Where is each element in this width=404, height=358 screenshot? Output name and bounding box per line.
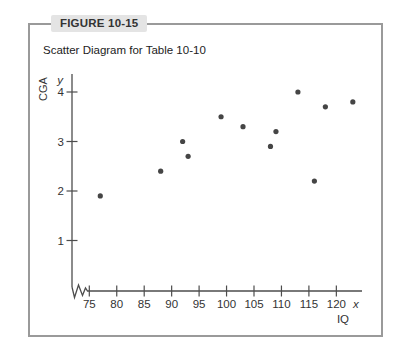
data-point xyxy=(158,169,163,174)
data-point xyxy=(218,114,223,119)
data-point xyxy=(98,193,103,198)
x-tick-label: 120 xyxy=(327,298,346,310)
y-axis-letter: y xyxy=(56,74,64,86)
x-tick-label: 115 xyxy=(300,298,318,310)
figure-10-15: FIGURE 10-15 Scatter Diagram for Table 1… xyxy=(0,0,404,358)
data-point xyxy=(186,154,191,159)
figure-title: Scatter Diagram for Table 10-10 xyxy=(43,44,206,57)
data-point xyxy=(268,144,273,149)
data-point xyxy=(312,179,317,184)
y-tick-label: 4 xyxy=(58,86,65,98)
x-tick-label: 100 xyxy=(217,298,236,310)
x-tick-label: 95 xyxy=(193,298,206,310)
x-tick-label: 75 xyxy=(83,298,96,310)
x-axis-line-with-break xyxy=(72,285,362,298)
y-tick-label: 2 xyxy=(58,185,64,197)
data-point xyxy=(350,99,355,104)
y-axis-title: CGA xyxy=(37,76,49,101)
data-point xyxy=(295,89,300,94)
x-tick-label: 110 xyxy=(272,298,290,310)
data-point xyxy=(180,139,185,144)
y-tick-label: 1 xyxy=(58,235,64,247)
x-tick-label: 105 xyxy=(244,298,263,310)
data-point xyxy=(240,124,245,129)
x-tick-label: 90 xyxy=(165,298,178,310)
x-tick-label: 85 xyxy=(138,298,151,310)
x-axis-letter: x xyxy=(352,298,360,310)
x-tick-label: 80 xyxy=(110,298,123,310)
x-axis-title: IQ xyxy=(337,313,349,325)
data-point xyxy=(273,129,278,134)
y-tick-label: 3 xyxy=(58,136,64,148)
data-point xyxy=(323,104,328,109)
figure-label: FIGURE 10-15 xyxy=(51,15,147,32)
